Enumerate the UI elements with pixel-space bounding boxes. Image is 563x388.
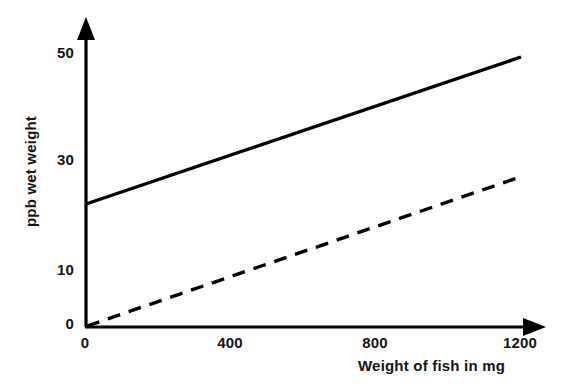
y-tick-label-50: 50 bbox=[34, 44, 74, 61]
x-tick-label-1200: 1200 bbox=[492, 334, 548, 351]
series-solid-line bbox=[86, 57, 521, 204]
chart-plot-area bbox=[0, 0, 563, 388]
y-tick-label-30: 30 bbox=[34, 151, 74, 168]
x-axis-title: Weight of fish in mg bbox=[358, 357, 505, 374]
x-tick-label-0: 0 bbox=[65, 334, 105, 351]
chart-figure: 50 30 10 0 0 400 800 1200 ppb wet weight… bbox=[0, 0, 563, 388]
y-axis-arrow-head bbox=[77, 17, 95, 40]
x-tick-label-800: 800 bbox=[350, 334, 400, 351]
series-dashed-line bbox=[87, 176, 523, 326]
x-tick-label-400: 400 bbox=[205, 334, 255, 351]
y-tick-label-10: 10 bbox=[34, 261, 74, 278]
y-axis-title: ppb wet weight bbox=[22, 106, 39, 238]
y-tick-label-0: 0 bbox=[34, 315, 74, 332]
